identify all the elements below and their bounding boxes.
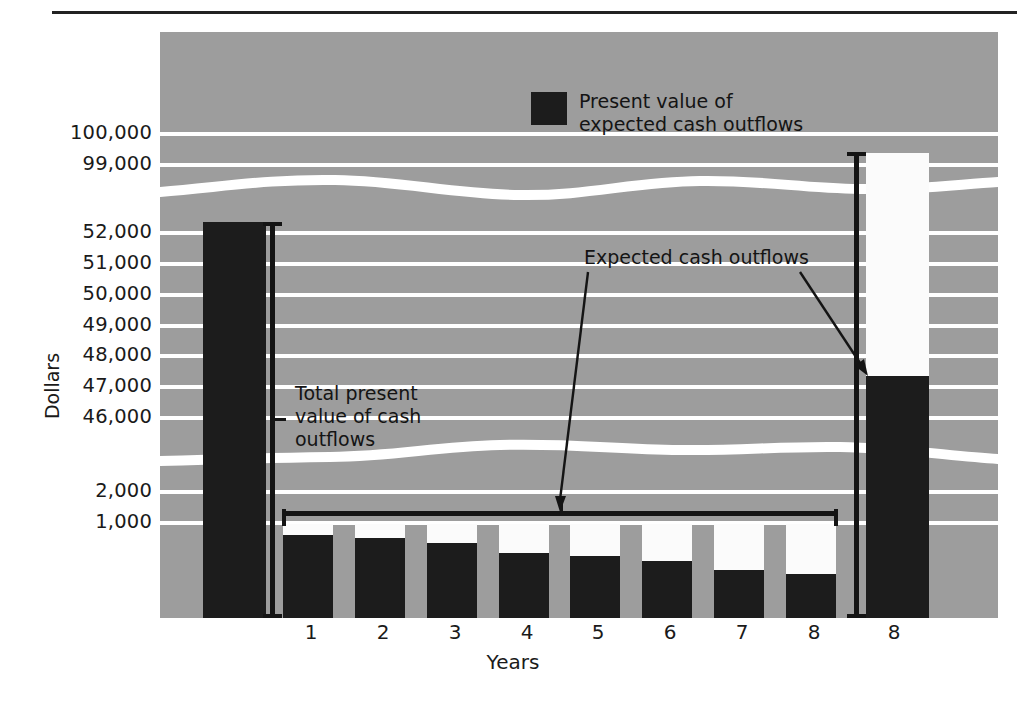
- y-tick-label: 47,000: [83, 376, 152, 396]
- x-tick-label-8-total: 8: [866, 620, 922, 644]
- x-tick-label-6: 6: [642, 620, 698, 644]
- y-tick-label: 1,000: [95, 512, 152, 532]
- y-tick-label: 99,000: [83, 154, 152, 174]
- y-tick-label: 52,000: [83, 222, 152, 242]
- y-tick-label: 48,000: [83, 345, 152, 365]
- x-tick-label-4: 4: [499, 620, 555, 644]
- annotation-leader-lines: [160, 32, 998, 618]
- plot-area: Present value of expected cash outflows …: [160, 32, 998, 618]
- y-tick-label: 100,000: [70, 123, 152, 143]
- x-tick-label-3: 3: [427, 620, 483, 644]
- x-tick-label-1: 1: [283, 620, 339, 644]
- y-tick-label: 2,000: [95, 481, 152, 501]
- y-axis-title: Dollars: [41, 326, 63, 446]
- x-axis-title: Years: [0, 650, 1026, 674]
- y-tick-label: 46,000: [83, 407, 152, 427]
- y-tick-label: 50,000: [83, 284, 152, 304]
- chart-figure: 100,000 99,000 52,000 51,000 50,000 49,0…: [0, 0, 1026, 707]
- x-tick-label-5: 5: [570, 620, 626, 644]
- y-axis-tick-labels: 100,000 99,000 52,000 51,000 50,000 49,0…: [0, 0, 152, 707]
- x-tick-label-7: 7: [714, 620, 770, 644]
- x-tick-label-2: 2: [355, 620, 411, 644]
- x-tick-label-8: 8: [786, 620, 842, 644]
- y-tick-label: 51,000: [83, 253, 152, 273]
- y-tick-label: 49,000: [83, 315, 152, 335]
